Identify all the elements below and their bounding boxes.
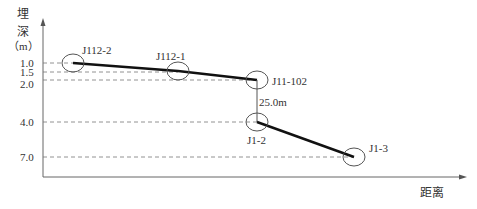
y-axis-unit: （m） (8, 40, 39, 52)
y-axis-title-line2: 深 (17, 25, 29, 39)
y-tick-2-0: 2.0 (20, 78, 34, 90)
node-label-j1-3: J1-3 (369, 142, 388, 154)
y-tick-7-0: 7.0 (20, 151, 34, 163)
x-axis-title: 距离 (420, 185, 444, 200)
pipe-segment-lower (257, 122, 354, 157)
node-label-j112-1: J112-1 (156, 50, 186, 62)
drop-length-label: 25.0m (259, 96, 287, 108)
y-tick-1-5: 1.5 (20, 66, 34, 78)
node-label-j1-2: J1-2 (247, 134, 266, 146)
node-label-j112-2: J112-2 (82, 44, 112, 56)
pipe-segment-upper (73, 63, 257, 80)
node-label-j11-102: J11-102 (272, 75, 307, 87)
y-axis-title-line1: 埋 (17, 7, 29, 21)
y-axis-arrow-icon (41, 18, 46, 26)
depth-reference-lines (43, 63, 354, 157)
y-tick-4-0: 4.0 (20, 116, 34, 128)
x-axis-arrow-icon (459, 175, 467, 180)
profile-diagram: 埋 深 （m） 1.0 1.5 2.0 4.0 7.0 J112-2 J112-… (0, 0, 477, 209)
